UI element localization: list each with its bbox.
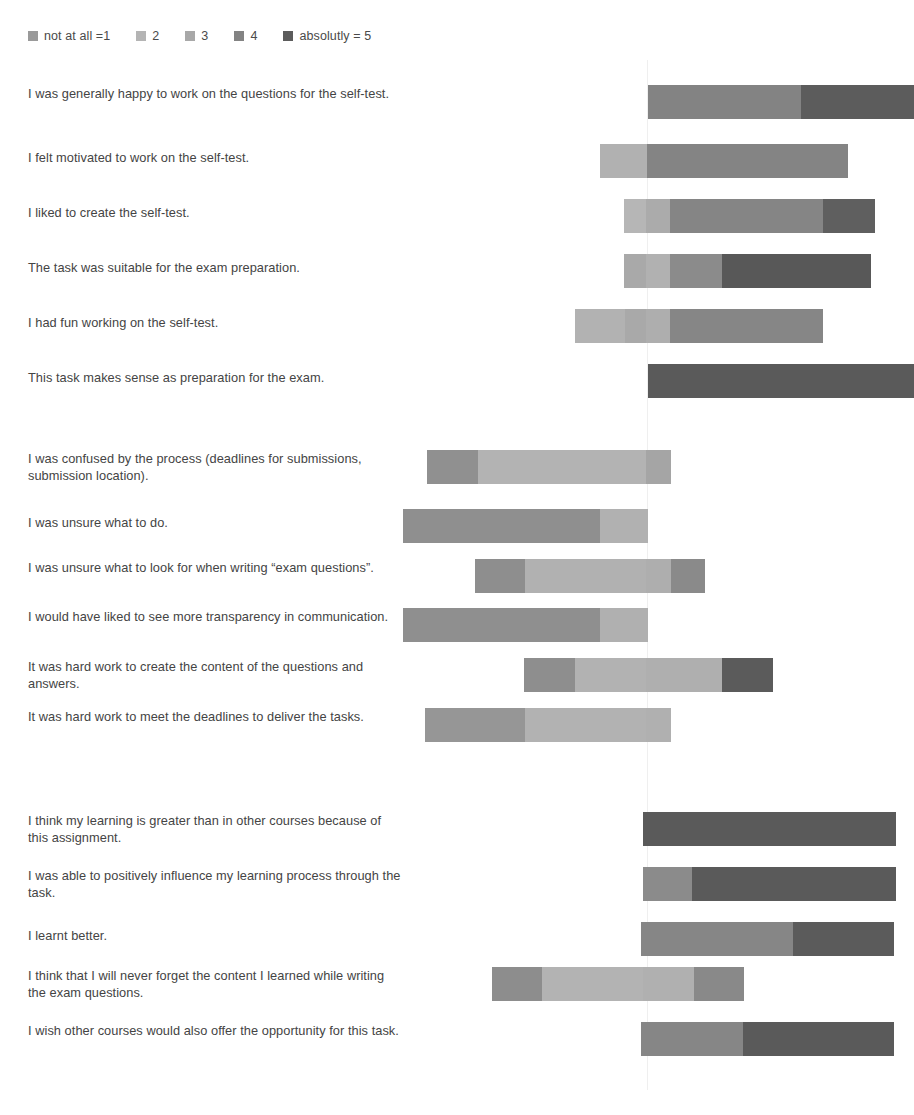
chart-row-label: I was unsure what to look for when writi… xyxy=(28,559,403,576)
bar-segment-1[interactable] xyxy=(492,967,542,1001)
stacked-bar[interactable] xyxy=(403,509,648,543)
bar-segment-2[interactable] xyxy=(575,658,646,692)
bar-segment-3[interactable] xyxy=(646,450,671,484)
bar-segment-4[interactable] xyxy=(670,254,722,288)
bar-segment-5[interactable] xyxy=(743,1022,894,1056)
bar-segment-2[interactable] xyxy=(542,967,643,1001)
bar-segment-2[interactable] xyxy=(575,309,625,343)
chart-row-label: I had fun working on the self-test. xyxy=(28,314,403,331)
bar-segment-3[interactable] xyxy=(646,254,670,288)
bar-segment-4[interactable] xyxy=(647,144,848,178)
stacked-bar[interactable] xyxy=(643,812,896,846)
bar-segment-5[interactable] xyxy=(722,658,773,692)
stacked-bar[interactable] xyxy=(643,867,896,901)
bar-segment-3[interactable] xyxy=(646,199,670,233)
bar-segment-4[interactable] xyxy=(694,967,744,1001)
bar-segment-5[interactable] xyxy=(793,922,894,956)
chart-row-label: I was generally happy to work on the que… xyxy=(28,85,403,102)
bar-segment-1[interactable] xyxy=(403,608,600,642)
bar-segment-4[interactable] xyxy=(641,922,793,956)
chart-row-label: I felt motivated to work on the self-tes… xyxy=(28,149,403,166)
chart-row-label: I was unsure what to do. xyxy=(28,514,403,531)
bar-segment-4[interactable] xyxy=(641,1022,743,1056)
bar-segment-2[interactable] xyxy=(525,708,646,742)
chart-row-label: It was hard work to meet the deadlines t… xyxy=(28,708,403,725)
likert-chart: not at all =1234absolutly = 5 I was gene… xyxy=(0,0,914,1115)
bar-segment-3[interactable] xyxy=(646,708,671,742)
bar-segment-3[interactable] xyxy=(600,144,647,178)
stacked-bar[interactable] xyxy=(641,1022,894,1056)
chart-row-label: It was hard work to create the content o… xyxy=(28,658,403,692)
bar-segment-2[interactable] xyxy=(624,199,646,233)
bar-segment-2[interactable] xyxy=(600,509,648,543)
stacked-bar[interactable] xyxy=(492,967,744,1001)
chart-row-label: I was confused by the process (deadlines… xyxy=(28,450,403,484)
bar-segment-3[interactable] xyxy=(643,967,694,1001)
bar-segment-1[interactable] xyxy=(427,450,478,484)
bar-segment-4[interactable] xyxy=(643,867,692,901)
bar-segment-3[interactable] xyxy=(625,309,646,343)
bar-segment-5[interactable] xyxy=(801,85,914,119)
bar-segment-1[interactable] xyxy=(425,708,525,742)
stacked-bar[interactable] xyxy=(575,309,825,343)
stacked-bar[interactable] xyxy=(648,85,914,119)
bar-segment-5[interactable] xyxy=(722,254,871,288)
stacked-bar[interactable] xyxy=(624,199,877,233)
chart-row-label: I liked to create the self-test. xyxy=(28,204,403,221)
stacked-bar[interactable] xyxy=(475,559,707,593)
bar-segment-3[interactable] xyxy=(646,309,670,343)
stacked-bar[interactable] xyxy=(648,364,914,398)
chart-row-label: I would have liked to see more transpare… xyxy=(28,608,403,625)
stacked-bar[interactable] xyxy=(425,708,673,742)
bar-segment-5[interactable] xyxy=(823,199,875,233)
stacked-bar[interactable] xyxy=(641,922,894,956)
chart-row-label: I was able to positively influence my le… xyxy=(28,867,403,901)
stacked-bar[interactable] xyxy=(524,658,775,692)
stacked-bar[interactable] xyxy=(427,450,673,484)
bar-segment-4[interactable] xyxy=(648,85,801,119)
bar-segment-1[interactable] xyxy=(475,559,525,593)
bar-segment-1[interactable] xyxy=(524,658,575,692)
bar-segment-2[interactable] xyxy=(624,254,646,288)
stacked-bar[interactable] xyxy=(403,608,648,642)
chart-row-label: The task was suitable for the exam prepa… xyxy=(28,259,403,276)
bar-segment-4[interactable] xyxy=(670,309,823,343)
stacked-bar[interactable] xyxy=(624,254,873,288)
chart-row-label: I learnt better. xyxy=(28,927,403,944)
stacked-bar[interactable] xyxy=(600,144,849,178)
chart-row-label: I wish other courses would also offer th… xyxy=(28,1022,403,1039)
bar-segment-4[interactable] xyxy=(670,199,823,233)
bar-segment-5[interactable] xyxy=(643,812,896,846)
bar-segment-1[interactable] xyxy=(403,509,600,543)
chart-row-label: I think my learning is greater than in o… xyxy=(28,812,403,846)
bar-segment-3[interactable] xyxy=(646,658,722,692)
bar-segment-3[interactable] xyxy=(646,559,671,593)
bar-segment-5[interactable] xyxy=(692,867,896,901)
bar-segment-2[interactable] xyxy=(600,608,648,642)
chart-row-label: I think that I will never forget the con… xyxy=(28,967,403,1001)
bar-segment-2[interactable] xyxy=(478,450,646,484)
bar-segment-5[interactable] xyxy=(648,364,914,398)
chart-row-label: This task makes sense as preparation for… xyxy=(28,369,403,386)
chart-plot-area: I was generally happy to work on the que… xyxy=(0,0,914,1115)
bar-segment-4[interactable] xyxy=(671,559,705,593)
bar-segment-2[interactable] xyxy=(525,559,646,593)
